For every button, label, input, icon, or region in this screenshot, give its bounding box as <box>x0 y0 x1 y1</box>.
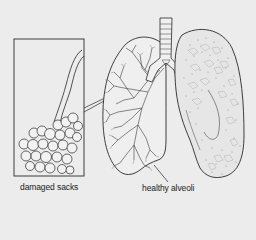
damaged-sacks-label: damaged sacks <box>20 182 78 192</box>
damaged-sacks-cluster <box>19 113 83 174</box>
healthy-alveoli-pointer <box>154 165 168 182</box>
healthy-alveoli-label: healthy alveoli <box>142 183 194 193</box>
right-lung <box>175 29 244 177</box>
left-lung <box>103 37 166 174</box>
